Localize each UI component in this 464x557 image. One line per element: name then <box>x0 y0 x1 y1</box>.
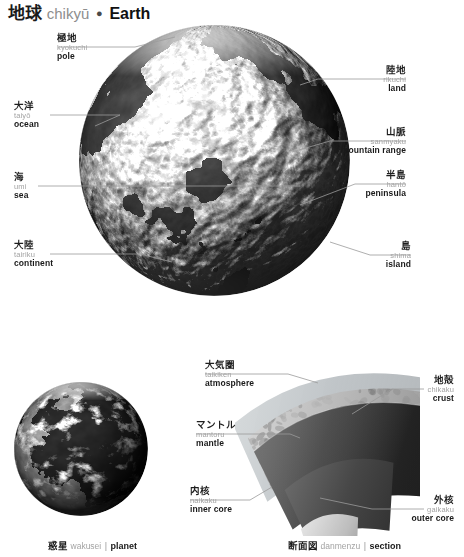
label-island-en: island <box>366 260 411 269</box>
caption-section-en: section <box>370 541 402 551</box>
label-pole-en: pole <box>57 52 87 61</box>
label-peninsula: 半島 hantō peninsula <box>336 170 406 199</box>
label-atmosphere: 大気圏 taikiken atmosphere <box>205 360 254 389</box>
label-island: 島 shima island <box>366 241 411 270</box>
title-separator-dot: ● <box>94 7 105 19</box>
caption-planet-bar: | <box>104 541 108 551</box>
label-sea: 海 umi sea <box>14 172 28 201</box>
small-earth-globe <box>13 381 148 516</box>
label-inner-core: 内核 naikaku inner core <box>190 486 232 515</box>
caption-section-bar: | <box>363 541 367 551</box>
main-earth-globe <box>78 24 350 296</box>
label-ocean-en: ocean <box>14 120 39 129</box>
label-peninsula-en: peninsula <box>336 189 406 198</box>
caption-section-jp: 断面図 <box>288 540 318 551</box>
label-continent-en: continent <box>14 259 53 268</box>
label-continent: 大陸 tairiku continent <box>14 240 53 269</box>
caption-planet-en: planet <box>111 541 138 551</box>
label-ocean: 大洋 taiyō ocean <box>14 101 39 130</box>
label-pole: 極地 kyokuchi pole <box>57 33 87 62</box>
caption-planet-jp: 惑星 <box>48 540 68 551</box>
page-title-romaji: chikyū <box>47 5 90 22</box>
label-land: 陸地 rikuchi land <box>348 65 406 94</box>
page-title: 地球 chikyū ● Earth <box>8 3 150 24</box>
label-mantle: マントル mantoru mantle <box>196 420 236 449</box>
page-title-jp: 地球 <box>8 4 42 23</box>
label-outer-core-en: outer core <box>386 514 454 523</box>
label-mountain-range: 山脈 sanmyaku mountain range <box>318 127 406 156</box>
caption-section-romaji: danmenzu <box>321 541 361 551</box>
page-title-en: Earth <box>109 5 150 22</box>
label-outer-core: 外核 gaikaku outer core <box>386 495 454 524</box>
page-root: 地球 chikyū ● Earth <box>0 0 464 557</box>
caption-planet-romaji: wakusei <box>71 541 102 551</box>
caption-planet: 惑星 wakusei | planet <box>48 538 137 552</box>
label-mantle-en: mantle <box>196 439 236 448</box>
label-atmosphere-en: atmosphere <box>205 379 254 388</box>
label-sea-en: sea <box>14 191 28 200</box>
caption-section: 断面図 danmenzu | section <box>288 538 401 552</box>
label-mountain-range-en: mountain range <box>318 146 406 155</box>
label-crust: 地殻 chikaku crust <box>396 375 454 404</box>
label-land-en: land <box>348 84 406 93</box>
label-crust-en: crust <box>396 394 454 403</box>
label-inner-core-en: inner core <box>190 505 232 514</box>
